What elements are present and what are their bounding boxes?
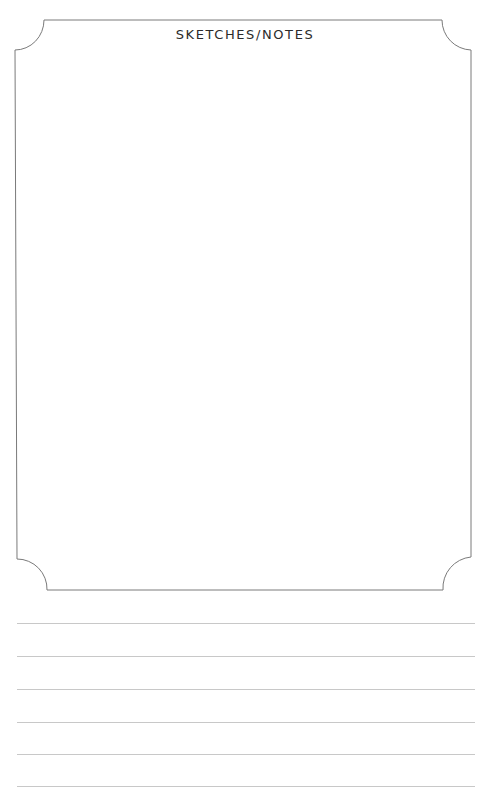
note-line-2[interactable]	[17, 656, 475, 657]
note-line-3[interactable]	[17, 689, 475, 690]
note-line-6[interactable]	[17, 786, 475, 787]
note-line-5[interactable]	[17, 754, 475, 755]
note-line-1[interactable]	[17, 623, 475, 624]
note-line-4[interactable]	[17, 722, 475, 723]
notes-lines	[0, 0, 480, 791]
